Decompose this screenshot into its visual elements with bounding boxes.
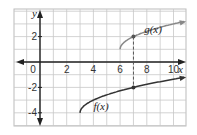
x-tick-label: 0 — [30, 64, 36, 75]
point-f-7 — [131, 85, 135, 89]
g-label: g(x) — [144, 23, 162, 36]
x-tick-label: 8 — [144, 64, 150, 75]
x-tick-label: 4 — [91, 64, 97, 75]
x-tick-label: 2 — [64, 64, 70, 75]
function-graph: 02468102-2-4yxg(x)f(x) — [0, 0, 197, 135]
y-axis-label: y — [31, 7, 37, 19]
point-g-7 — [131, 35, 135, 39]
x-axis-label: x — [177, 63, 183, 75]
f-label: f(x) — [93, 100, 109, 113]
y-tick-label: -4 — [28, 107, 37, 118]
x-tick-label: 6 — [117, 64, 123, 75]
y-tick-label: 2 — [31, 31, 37, 42]
y-tick-label: -2 — [28, 82, 37, 93]
